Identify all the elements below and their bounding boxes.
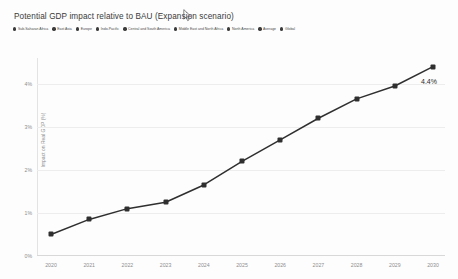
legend-item[interactable]: Average [258, 27, 276, 31]
legend-swatch-icon [123, 27, 126, 30]
x-axis-tick-label: 2023 [160, 262, 172, 268]
y-axis-tick-label: 3% [25, 124, 33, 130]
x-axis-tick-label: 2020 [45, 262, 57, 268]
x-axis-tick-label: 2022 [122, 262, 134, 268]
legend-item-label: Average [263, 27, 276, 31]
data-point-marker[interactable] [240, 159, 245, 164]
data-point-marker[interactable] [316, 116, 321, 121]
legend-item[interactable]: East Asia [52, 27, 71, 31]
series-line [37, 58, 445, 256]
x-axis-tick-label: 2026 [274, 262, 286, 268]
chart-title: Potential GDP impact relative to BAU (Ex… [14, 12, 234, 21]
data-point-marker[interactable] [431, 64, 436, 69]
legend-swatch-icon [174, 27, 177, 30]
y-axis-tick-label: 0% [25, 253, 33, 259]
data-point-marker[interactable] [392, 83, 397, 88]
legend-item[interactable]: Middle East and North Africa [174, 27, 223, 31]
legend-swatch-icon [227, 27, 230, 30]
x-axis-tick-label: 2029 [389, 262, 401, 268]
chart-container: Potential GDP impact relative to BAU (Ex… [0, 0, 458, 279]
y-axis-tick-label: 2% [25, 167, 33, 173]
x-axis-tick-label: 2021 [83, 262, 95, 268]
x-axis-tick-label: 2024 [198, 262, 210, 268]
legend-swatch-icon [13, 27, 16, 30]
plot-area: 0%1%2%3%4% 20202021202220232024202520262… [37, 58, 445, 256]
data-point-marker[interactable] [163, 200, 168, 205]
legend-item[interactable]: Sub-Saharan Africa [13, 27, 48, 31]
end-value-label: 4.4% [421, 77, 437, 84]
legend-item[interactable]: North America [227, 27, 254, 31]
legend-item-label: North America [232, 27, 254, 31]
legend-swatch-icon [258, 27, 261, 30]
x-axis-tick-label: 2030 [427, 262, 439, 268]
legend-swatch-icon [280, 27, 283, 30]
x-axis-tick-label: 2028 [351, 262, 363, 268]
legend-item-label: Europe [81, 27, 92, 31]
legend-item[interactable]: Indo-Pacific [96, 27, 119, 31]
data-point-marker[interactable] [125, 206, 130, 211]
y-axis-tick-label: 1% [25, 210, 33, 216]
legend-item[interactable]: Central and South America [123, 27, 170, 31]
y-axis-tick-label: 4% [25, 81, 33, 87]
data-point-marker[interactable] [201, 182, 206, 187]
data-point-marker[interactable] [354, 96, 359, 101]
legend-swatch-icon [52, 27, 55, 30]
data-point-marker[interactable] [49, 232, 54, 237]
legend-swatch-icon [76, 27, 79, 30]
x-axis-tick-label: 2027 [313, 262, 325, 268]
legend-item-label: Global [285, 27, 295, 31]
legend-item-label: Central and South America [128, 27, 170, 31]
data-point-marker[interactable] [87, 217, 92, 222]
chart-legend: Sub-Saharan AfricaEast AsiaEuropeIndo-Pa… [13, 27, 295, 31]
legend-swatch-icon [96, 27, 99, 30]
legend-item-label: Indo-Pacific [101, 27, 119, 31]
legend-item-label: East Asia [57, 27, 72, 31]
legend-item-label: Sub-Saharan Africa [18, 27, 48, 31]
data-point-marker[interactable] [278, 137, 283, 142]
legend-item[interactable]: Global [280, 27, 295, 31]
legend-item-label: Middle East and North Africa [179, 27, 223, 31]
mouse-cursor-icon [183, 9, 192, 22]
x-axis-tick-label: 2025 [236, 262, 248, 268]
legend-item[interactable]: Europe [76, 27, 92, 31]
